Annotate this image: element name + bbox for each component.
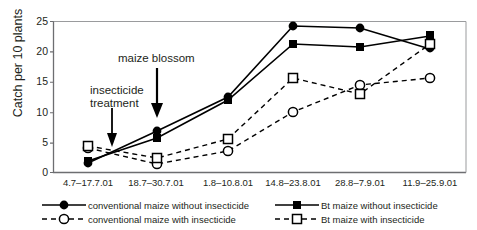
legend-marker-open-circle-icon	[42, 213, 86, 225]
legend-marker-open-square-icon	[275, 213, 319, 225]
series-bt-with-insecticide	[84, 40, 435, 163]
legend-label-1: conventional maize without insecticide	[88, 200, 249, 211]
legend-label-2: Bt maize without insecticide	[321, 200, 438, 211]
arrow-insecticide-icon	[107, 108, 117, 147]
series-bt-without-insecticide	[84, 31, 434, 165]
plot-area	[0, 0, 477, 230]
chart-figure: Catch per 10 plants 25 20 15 10 5 0 4.7–…	[0, 0, 477, 230]
legend-item-bt-without-insecticide: Bt maize without insecticide	[275, 199, 438, 211]
legend-marker-filled-circle-icon	[42, 199, 86, 211]
legend-item-conventional-with-insecticide: conventional maize with insecticide	[42, 213, 236, 225]
legend-item-bt-with-insecticide: Bt maize with insecticide	[275, 213, 424, 225]
legend-label-4: Bt maize with insecticide	[321, 214, 424, 225]
legend-item-conventional-without-insecticide: conventional maize without insecticide	[42, 199, 249, 211]
axis-frame	[50, 21, 466, 173]
legend-label-3: conventional maize with insecticide	[88, 214, 236, 225]
arrow-maize-blossom-icon	[151, 68, 163, 118]
legend-marker-filled-square-icon	[275, 199, 319, 211]
